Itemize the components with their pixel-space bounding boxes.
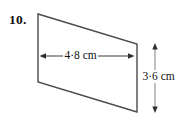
parallelogram-outline [38,14,137,112]
height-dimension-label: 3·6 cm [141,70,176,83]
height-arrowhead-top [152,43,157,50]
figure-drawing [0,0,190,133]
parallelogram-figure: 10. 4·8 cm 3·6 cm [0,0,190,133]
width-dimension-label: 4·8 cm [63,49,98,62]
width-arrowhead-right [128,53,135,59]
height-arrowhead-bottom [152,107,157,114]
width-arrowhead-left [40,53,47,59]
parallelogram-shape [38,14,137,112]
